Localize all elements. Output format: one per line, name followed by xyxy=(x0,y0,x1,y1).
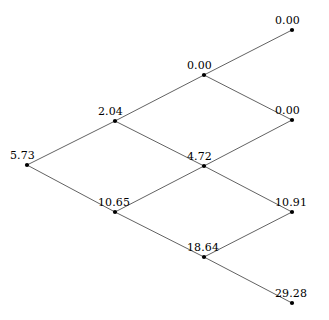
lattice-edge xyxy=(27,121,115,165)
lattice-edge xyxy=(204,30,292,75)
lattice-node-dot xyxy=(290,210,294,214)
node-value-label: 29.28 xyxy=(275,288,307,299)
lattice-node-dot xyxy=(202,73,206,77)
lattice-edge xyxy=(204,120,292,166)
node-value-label: 5.73 xyxy=(10,150,35,161)
node-group xyxy=(25,28,294,305)
node-value-label: 10.65 xyxy=(98,197,130,208)
node-value-label: 0.00 xyxy=(275,15,300,26)
node-value-label: 2.04 xyxy=(98,106,123,117)
lattice-edge xyxy=(115,75,204,121)
node-value-label: 4.72 xyxy=(187,151,212,162)
lattice-node-dot xyxy=(290,28,294,32)
lattice-canvas xyxy=(0,0,329,320)
lattice-node-dot xyxy=(25,163,29,167)
edge-group xyxy=(27,30,292,303)
binomial-lattice-figure: 5.732.0410.650.004.7218.640.000.0010.912… xyxy=(0,0,329,320)
lattice-node-dot xyxy=(290,118,294,122)
lattice-node-dot xyxy=(290,301,294,305)
node-value-label: 0.00 xyxy=(187,60,212,71)
lattice-node-dot xyxy=(113,210,117,214)
lattice-node-dot xyxy=(113,119,117,123)
lattice-node-dot xyxy=(202,255,206,259)
node-value-label: 10.91 xyxy=(275,197,307,208)
lattice-node-dot xyxy=(202,164,206,168)
node-value-label: 0.00 xyxy=(275,105,300,116)
node-value-label: 18.64 xyxy=(187,242,219,253)
